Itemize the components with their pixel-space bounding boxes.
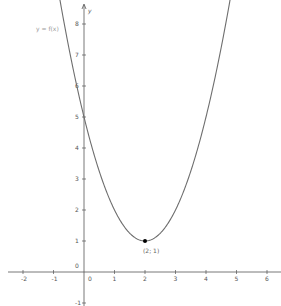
y-tick-label: 1 <box>75 237 79 244</box>
axes <box>8 4 281 306</box>
vertex-label: (2; 1) <box>143 247 159 254</box>
x-tick-label: -1 <box>52 275 58 282</box>
parabola-curve <box>57 0 234 241</box>
y-tick-label: -1 <box>75 299 81 306</box>
function-graph: -2-10123456-1012345678 y = f(x) y (2; 1) <box>0 0 281 306</box>
x-tick-label: 6 <box>265 275 269 282</box>
y-tick-label: 5 <box>75 113 79 120</box>
y-tick-label: 3 <box>75 175 79 182</box>
x-tick-label: 4 <box>204 275 208 282</box>
vertex-point[interactable] <box>143 239 147 243</box>
curve-label: y = f(x) <box>36 25 59 33</box>
axis-ticks: -2-10123456-1012345678 <box>21 20 269 306</box>
x-tick-label: 0 <box>88 275 92 282</box>
x-tick-label: 3 <box>174 275 178 282</box>
y-tick-label: 4 <box>75 144 79 151</box>
x-tick-label: 2 <box>143 275 147 282</box>
x-tick-label: 5 <box>235 275 239 282</box>
y-tick-label: 0 <box>75 262 79 269</box>
y-axis-label: y <box>87 7 92 15</box>
y-tick-label: 8 <box>75 20 79 27</box>
y-tick-label: 2 <box>75 206 79 213</box>
x-tick-label: -2 <box>21 275 27 282</box>
y-tick-label: 7 <box>75 51 79 58</box>
x-tick-label: 1 <box>113 275 117 282</box>
